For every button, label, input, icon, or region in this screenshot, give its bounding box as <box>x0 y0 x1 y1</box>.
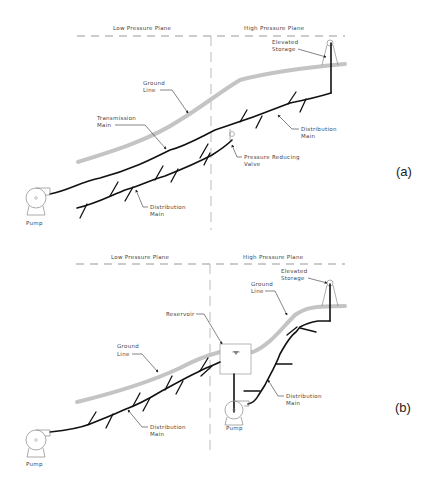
reservoir-leader <box>196 314 222 344</box>
elevated-storage-label-b-1: Elevated <box>281 268 307 274</box>
distribution-main-label-a-left-2: Main <box>150 211 165 217</box>
ground-line-leader-b-right <box>265 291 287 315</box>
distribution-main-leader-b-left <box>128 410 148 427</box>
branch <box>300 328 316 332</box>
elevated-storage-label-a-1: Elevated <box>272 39 298 45</box>
pump-label-b-left: Pump <box>26 461 43 468</box>
elevated-storage-b <box>322 280 338 321</box>
reservoir-label: Reservoir <box>166 311 195 317</box>
transmission-main-label-2: Main <box>97 122 112 128</box>
ground-line-leader-a <box>160 90 188 113</box>
branch <box>200 144 208 158</box>
distribution-main-label-b-right-1: Distribution <box>286 393 322 399</box>
panel-tag-a: (a) <box>396 164 412 179</box>
elevated-storage-label-a-2: Storage <box>272 46 296 53</box>
ground-line-label-b-right-2: Line <box>251 288 264 294</box>
low-pressure-plane-label-b: Low Pressure Plane <box>111 254 170 260</box>
distribution-main-label-a-left-1: Distribution <box>150 204 186 210</box>
panel-b: Low Pressure Plane High Pressure Plane E… <box>26 254 411 468</box>
transmission-main-a <box>50 93 331 194</box>
distribution-main-low-b <box>50 362 220 432</box>
reservoir-b <box>220 344 251 374</box>
low-pressure-plane-label-a: Low Pressure Plane <box>113 25 172 31</box>
ground-line-label-b-left-2: Line <box>117 351 130 357</box>
high-pressure-plane-label-b: High Pressure Plane <box>243 254 304 261</box>
pump-label-a: Pump <box>26 220 43 227</box>
elevated-storage-leader-a <box>298 49 326 57</box>
prv-leader <box>232 145 242 157</box>
branch <box>287 327 297 335</box>
branch <box>256 116 262 128</box>
pump-icon-b-right <box>225 401 249 425</box>
prv-label-2: Valve <box>244 161 261 167</box>
high-pressure-plane-label-a: High Pressure Plane <box>244 25 305 32</box>
ground-line-label-b-left-1: Ground <box>117 343 139 349</box>
elevated-storage-leader-b <box>308 278 327 283</box>
distribution-main-leader-a-right <box>278 115 299 129</box>
prv-label-1: Pressure Reducing <box>244 154 300 161</box>
panel-a: Low Pressure Plane High Pressure Plane E… <box>26 25 412 230</box>
distribution-main-label-b-right-2: Main <box>286 400 301 406</box>
distribution-main-label-a-right-2: Main <box>301 133 316 139</box>
water-distribution-diagram: Low Pressure Plane High Pressure Plane E… <box>0 0 431 490</box>
pump-icon-a <box>26 188 50 215</box>
distribution-main-leader-b-right <box>268 380 284 396</box>
transmission-main-label-1: Transmission <box>96 115 136 121</box>
ground-line-leader-b-left <box>132 354 158 372</box>
distribution-main-label-b-left-2: Main <box>150 431 165 437</box>
pump-label-b-right: Pump <box>226 425 243 432</box>
distribution-main-label-b-left-1: Distribution <box>150 424 186 430</box>
distribution-main-lower-a <box>77 140 232 208</box>
ground-line-label-a-1: Ground <box>143 80 165 86</box>
branch <box>171 169 178 182</box>
ground-line-label-b-right-1: Ground <box>251 281 273 287</box>
panel-tag-b: (b) <box>395 400 411 415</box>
ground-line-label-a-2: Line <box>143 87 156 93</box>
distribution-main-label-a-right-1: Distribution <box>301 126 337 132</box>
elevated-storage-label-b-2: Storage <box>281 275 305 282</box>
pressure-reducing-valve-a <box>230 129 235 140</box>
pump-icon-b-left <box>26 430 50 457</box>
ground-line-a <box>78 64 345 162</box>
distribution-main-leader-a-left <box>136 190 148 207</box>
